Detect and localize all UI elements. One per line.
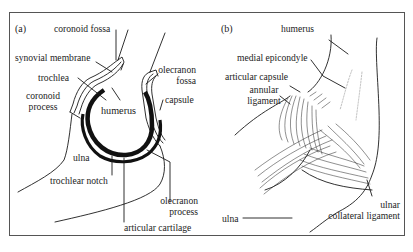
- label-ulnar-collateral-ligament: ulnar collateral ligament: [318, 200, 400, 221]
- label-articular-cartilage: articular cartilage: [124, 223, 191, 233]
- label-annular-ligament: annular ligament: [240, 85, 288, 106]
- label-trochlear-notch: trochlear notch: [50, 176, 108, 186]
- label-olecranon-process-line2: process: [150, 207, 198, 217]
- label-articular-capsule: articular capsule: [225, 72, 288, 82]
- label-humerus-a: humerus: [101, 106, 136, 116]
- label-ulna-a: ulna: [73, 153, 90, 163]
- label-annular-ligament-line1: annular: [240, 85, 288, 95]
- panel-a-tag: (a): [15, 23, 26, 34]
- label-ulna-b: ulna: [222, 214, 239, 224]
- label-olecranon-fossa-line2: fossa: [154, 76, 196, 86]
- label-humerus-b: humerus: [281, 24, 314, 34]
- panel-b-tag: (b): [221, 23, 233, 34]
- label-medial-epicondyle: medial epicondyle: [237, 53, 308, 63]
- label-olecranon-fossa: olecranon fossa: [154, 65, 196, 86]
- label-coronoid-process: coronoid process: [22, 91, 64, 112]
- label-coronoid-process-line2: process: [22, 102, 64, 112]
- label-olecranon-process: olecranon process: [150, 196, 198, 217]
- label-trochlea: trochlea: [38, 73, 69, 83]
- label-coronoid-fossa: coronoid fossa: [54, 24, 110, 34]
- label-olecranon-fossa-line1: olecranon: [154, 65, 196, 75]
- label-olecranon-process-line1: olecranon: [150, 196, 198, 206]
- label-annular-ligament-line2: ligament: [240, 96, 288, 106]
- label-ulnar-collateral-ligament-line1: ulnar: [318, 200, 400, 210]
- label-synovial-membrane: synovial membrane: [15, 53, 90, 63]
- label-coronoid-process-line1: coronoid: [22, 91, 64, 101]
- label-ulnar-collateral-ligament-line2: collateral ligament: [318, 211, 400, 221]
- label-capsule: capsule: [165, 95, 194, 105]
